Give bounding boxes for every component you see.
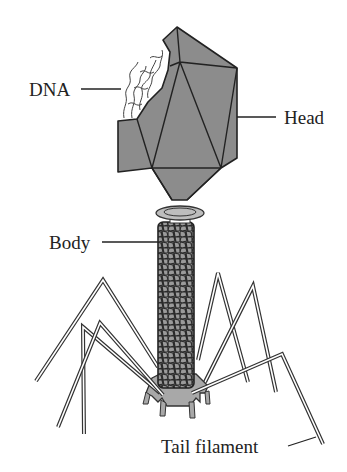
bacteriophage-diagram: DNA Head Body Tail filament <box>0 0 347 472</box>
collar <box>156 206 204 223</box>
body-label: Body <box>49 233 90 252</box>
head-capsid <box>118 27 237 200</box>
tail-filament-label: Tail filament <box>161 437 258 456</box>
dna-label: DNA <box>29 80 70 99</box>
tail-filament-leader-line <box>288 437 316 446</box>
body-sheath <box>158 222 194 388</box>
head-label: Head <box>284 108 324 127</box>
